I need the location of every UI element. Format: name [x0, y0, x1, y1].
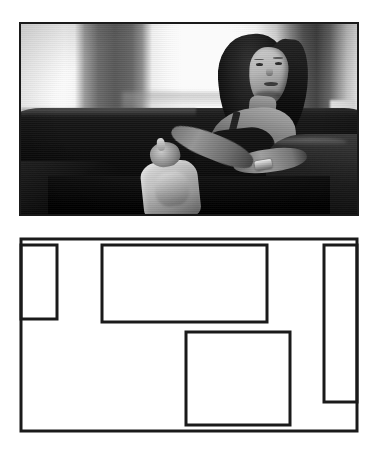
- woman-mouth: [264, 82, 278, 86]
- photograph-image: [21, 24, 357, 214]
- outer-frame-rect: [21, 239, 357, 431]
- left-narrow-region-rect: [21, 245, 57, 319]
- figure-container: Grayscale photograph of a woman with lon…: [0, 0, 378, 451]
- sofa-back-highlight: [21, 108, 196, 118]
- lower-center-region-rect: [186, 332, 290, 425]
- woman-nose: [266, 68, 273, 77]
- photograph-panel: Grayscale photograph of a woman with lon…: [19, 22, 359, 216]
- diagram-caption: Schematic line drawing of the photograph…: [18, 434, 19, 435]
- right-narrow-region-rect: [324, 245, 357, 402]
- diagram-svg: [18, 236, 360, 434]
- sofa-arm-right-edge: [273, 138, 347, 146]
- diagram-panel: Schematic line drawing of the photograph…: [18, 236, 360, 434]
- upper-center-region-rect: [102, 245, 267, 322]
